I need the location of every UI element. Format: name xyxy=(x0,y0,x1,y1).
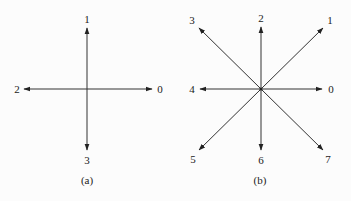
direction-label-7: 7 xyxy=(325,153,331,165)
direction-label-3: 3 xyxy=(84,154,90,166)
center-point xyxy=(260,88,263,91)
direction-arrow-5 xyxy=(199,89,261,150)
direction-label-0: 0 xyxy=(328,83,334,95)
direction-label-0: 0 xyxy=(157,83,163,95)
direction-label-2: 2 xyxy=(258,12,264,24)
panel-a-4-directions: 0123(a) xyxy=(14,13,163,187)
panel-caption: (a) xyxy=(81,174,94,187)
direction-label-6: 6 xyxy=(258,154,264,166)
direction-arrow-1 xyxy=(261,28,323,89)
direction-label-3: 3 xyxy=(189,14,195,26)
panel-caption: (b) xyxy=(254,174,267,187)
direction-arrow-7 xyxy=(261,89,323,150)
direction-label-2: 2 xyxy=(14,83,20,95)
direction-label-1: 1 xyxy=(84,13,90,25)
direction-label-1: 1 xyxy=(327,14,333,26)
direction-label-5: 5 xyxy=(190,153,196,165)
direction-label-4: 4 xyxy=(189,83,195,95)
direction-code-figure: 0123(a) 01234567(b) xyxy=(0,0,351,201)
direction-arrow-3 xyxy=(199,28,261,89)
panel-b-8-directions: 01234567(b) xyxy=(189,12,334,187)
